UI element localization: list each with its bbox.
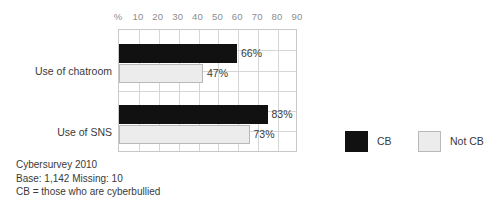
bar-sns-cb — [119, 105, 268, 124]
footnote-line-source: Cybersurvey 2010 — [16, 158, 316, 172]
bar-sns-notcb — [119, 125, 250, 144]
x-axis-tick-20: 20 — [152, 11, 163, 22]
x-axis-tick-90: 90 — [292, 11, 303, 22]
x-axis-tick-40: 40 — [192, 11, 203, 22]
bar-chatroom-notcb — [119, 64, 203, 83]
x-axis-tick-0: % — [114, 11, 123, 22]
x-axis-tick-80: 80 — [272, 11, 283, 22]
legend-label-not-cb: Not CB — [450, 136, 484, 147]
gridline-horizontal-3 — [119, 91, 296, 92]
category-label-chatroom: Use of chatroom — [35, 66, 112, 77]
x-axis-tick-60: 60 — [232, 11, 243, 22]
y-axis-category-labels: Use of chatroom Use of SNS — [0, 29, 112, 152]
footnote-line-base: Base: 1,142 Missing: 10 — [16, 172, 316, 186]
chart-footnote: Cybersurvey 2010 Base: 1,142 Missing: 10… — [16, 158, 316, 199]
bar-chatroom-cb — [119, 44, 237, 63]
bar-chart-figure: % 10 20 30 40 50 60 70 80 90 Use of chat… — [0, 0, 485, 206]
value-label-chatroom-notcb: 47% — [207, 68, 228, 79]
category-label-sns: Use of SNS — [57, 127, 112, 138]
legend-item-not-cb: Not CB — [418, 128, 484, 154]
footnote-line-definition: CB = those who are cyberbullied — [16, 185, 316, 199]
value-label-chatroom-cb: 66% — [241, 48, 262, 59]
legend-item-cb: CB — [345, 128, 392, 154]
x-axis-tick-50: 50 — [212, 11, 223, 22]
value-label-sns-cb: 83% — [272, 109, 293, 120]
value-label-sns-notcb: 73% — [254, 129, 275, 140]
x-axis-tick-10: 10 — [132, 11, 143, 22]
x-axis-tick-30: 30 — [172, 11, 183, 22]
legend-label-cb: CB — [377, 136, 392, 147]
x-axis-tick-labels: % 10 20 30 40 50 60 70 80 90 — [118, 11, 297, 25]
legend-swatch-not-cb-icon — [418, 131, 441, 152]
x-axis-tick-70: 70 — [252, 11, 263, 22]
legend-swatch-cb-icon — [345, 131, 368, 152]
chart-legend: CB Not CB — [345, 128, 485, 154]
plot-area: 66% 47% 83% 73% — [118, 29, 297, 152]
